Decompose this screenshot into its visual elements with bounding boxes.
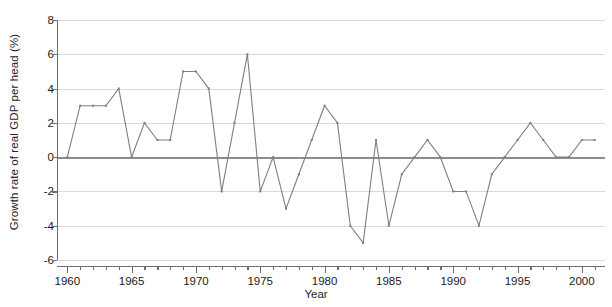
- x-tick-1962: [93, 266, 94, 270]
- data-point-1999: [568, 156, 570, 158]
- x-tick-1992: [479, 266, 480, 270]
- y-axis-tick-labels: 86420-2-4-6: [26, 0, 54, 307]
- x-tick-1987: [415, 266, 416, 270]
- x-tick-label-1975: 1975: [247, 275, 273, 287]
- data-point-1991: [465, 190, 467, 192]
- x-tick-1969: [183, 266, 184, 270]
- data-point-1996: [529, 122, 531, 124]
- data-point-1981: [336, 122, 338, 124]
- data-point-1964: [118, 88, 120, 90]
- x-tick-1960: [67, 266, 68, 273]
- x-axis-title: Year: [0, 288, 612, 300]
- data-point-1976: [272, 156, 274, 158]
- x-tick-1978: [299, 266, 300, 270]
- data-point-1970: [195, 70, 197, 72]
- data-point-1966: [143, 122, 145, 124]
- data-point-1968: [169, 139, 171, 141]
- y-tick-label--4: -4: [30, 220, 54, 232]
- data-point-1969: [182, 70, 184, 72]
- x-tick-1965: [132, 266, 133, 273]
- data-point-1985: [388, 225, 390, 227]
- x-axis: 196019651970197519801985199019952000: [57, 266, 605, 276]
- x-tick-1982: [350, 266, 351, 270]
- data-point-1965: [131, 156, 133, 158]
- data-point-1963: [105, 105, 107, 107]
- x-tick-1993: [492, 266, 493, 270]
- x-tick-1964: [119, 266, 120, 270]
- x-tick-1999: [569, 266, 570, 270]
- x-tick-1997: [543, 266, 544, 270]
- data-point-1971: [208, 88, 210, 90]
- y-axis-title-text: Growth rate of real GDP per head (%): [8, 34, 20, 230]
- data-point-1967: [156, 139, 158, 141]
- x-tick-label-1985: 1985: [376, 275, 402, 287]
- gridline-y--6: [57, 260, 605, 261]
- data-point-1979: [311, 139, 313, 141]
- x-tick-1986: [402, 266, 403, 270]
- x-tick-1983: [363, 266, 364, 270]
- y-tick-label-0: 0: [30, 151, 54, 163]
- x-tick-1966: [144, 266, 145, 270]
- data-point-1960: [66, 156, 68, 158]
- x-tick-1972: [222, 266, 223, 270]
- data-point-1962: [92, 105, 94, 107]
- x-tick-1985: [389, 266, 390, 273]
- plot-area: [57, 20, 605, 260]
- data-point-1980: [324, 105, 326, 107]
- data-point-1987: [414, 156, 416, 158]
- y-tick-label--6: -6: [30, 254, 54, 266]
- x-tick-1968: [170, 266, 171, 270]
- x-tick-1981: [337, 266, 338, 270]
- x-tick-1996: [530, 266, 531, 270]
- data-point-1989: [439, 156, 441, 158]
- data-point-1994: [504, 156, 506, 158]
- data-point-1990: [452, 190, 454, 192]
- x-tick-1989: [440, 266, 441, 270]
- data-point-1978: [298, 173, 300, 175]
- x-tick-1979: [312, 266, 313, 270]
- x-tick-label-1995: 1995: [505, 275, 531, 287]
- x-tick-1967: [157, 266, 158, 270]
- data-point-2001: [594, 139, 596, 141]
- data-point-1973: [234, 122, 236, 124]
- data-point-1998: [555, 156, 557, 158]
- x-tick-1974: [247, 266, 248, 270]
- data-point-1974: [246, 53, 248, 55]
- y-tick--6: [52, 260, 57, 261]
- y-tick-label-6: 6: [30, 48, 54, 60]
- data-point-1983: [362, 242, 364, 244]
- x-tick-label-1965: 1965: [119, 275, 145, 287]
- data-point-1975: [259, 190, 261, 192]
- x-tick-1963: [106, 266, 107, 270]
- x-tick-1988: [427, 266, 428, 270]
- x-tick-1984: [376, 266, 377, 270]
- x-tick-1994: [505, 266, 506, 270]
- x-axis-line: [57, 266, 605, 267]
- x-tick-1977: [286, 266, 287, 270]
- x-tick-2001: [595, 266, 596, 270]
- x-tick-1970: [196, 266, 197, 273]
- x-tick-label-1960: 1960: [54, 275, 80, 287]
- data-point-1977: [285, 208, 287, 210]
- x-tick-1961: [80, 266, 81, 270]
- x-tick-1980: [325, 266, 326, 273]
- data-point-2000: [581, 139, 583, 141]
- data-point-1986: [401, 173, 403, 175]
- y-tick-label-8: 8: [30, 14, 54, 26]
- x-tick-label-1970: 1970: [183, 275, 209, 287]
- data-point-1982: [349, 225, 351, 227]
- data-point-1992: [478, 225, 480, 227]
- x-tick-1990: [453, 266, 454, 273]
- chart-figure: Growth rate of real GDP per head (%) 864…: [0, 0, 612, 307]
- y-tick-label-4: 4: [30, 83, 54, 95]
- x-axis-title-text: Year: [304, 288, 327, 300]
- data-point-1961: [79, 105, 81, 107]
- x-tick-1995: [518, 266, 519, 273]
- x-tick-label-2000: 2000: [569, 275, 595, 287]
- x-tick-1971: [209, 266, 210, 270]
- data-point-1995: [517, 139, 519, 141]
- x-tick-label-1980: 1980: [312, 275, 338, 287]
- data-point-1988: [426, 139, 428, 141]
- series-polyline: [67, 54, 594, 243]
- data-point-1984: [375, 139, 377, 141]
